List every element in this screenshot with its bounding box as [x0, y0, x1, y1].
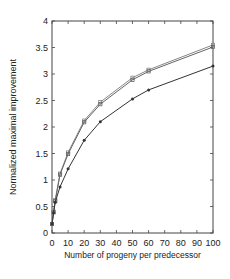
x-tick-label: 70: [160, 238, 170, 248]
x-tick-label: 0: [49, 238, 54, 248]
y-tick-label: 4: [43, 16, 48, 26]
data-point: [212, 65, 215, 68]
data-point: [83, 139, 86, 142]
series-1: [50, 45, 214, 225]
data-point: [59, 185, 62, 188]
x-tick-label: 30: [95, 238, 105, 248]
x-tick-label: 60: [144, 238, 154, 248]
x-tick-label: 40: [111, 238, 121, 248]
line-chart: 0102030405060708090100Number of progeny …: [0, 0, 230, 279]
y-tick-label: 1.5: [35, 149, 48, 159]
x-tick-label: 50: [127, 238, 137, 248]
x-tick-label: 90: [192, 238, 202, 248]
x-tick-label: 20: [79, 238, 89, 248]
x-tick-label: 100: [205, 238, 220, 248]
data-point: [51, 222, 54, 225]
chart-svg: 0102030405060708090100Number of progeny …: [0, 0, 230, 279]
x-tick-label: 10: [63, 238, 73, 248]
x-tick-label: 80: [176, 238, 186, 248]
y-tick-label: 0.5: [35, 202, 48, 212]
y-axis-label: Normalized maximal improvement: [8, 58, 18, 195]
y-tick-label: 1: [43, 175, 48, 185]
y-tick-label: 2.5: [35, 96, 48, 106]
y-tick-label: 0: [43, 228, 48, 238]
data-point: [99, 120, 102, 123]
data-point: [54, 201, 57, 204]
data-point: [131, 97, 134, 100]
y-tick-label: 2: [43, 122, 48, 132]
series-0: [50, 43, 214, 225]
data-point: [52, 211, 55, 214]
x-axis-label: Number of progeny per predecessor: [64, 250, 201, 260]
y-tick-label: 3.5: [35, 43, 48, 53]
y-axis: 00.511.522.533.54Normalized maximal impr…: [8, 16, 213, 238]
y-tick-label: 3: [43, 69, 48, 79]
data-point: [67, 167, 70, 170]
plot-frame: [52, 21, 213, 233]
series-2: [51, 65, 215, 226]
data-point: [147, 88, 150, 91]
